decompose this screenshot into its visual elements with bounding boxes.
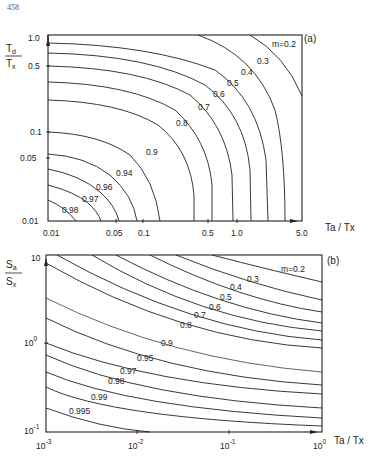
contour-label: 0.995	[69, 406, 91, 416]
contour-label: 0.5	[220, 292, 232, 302]
x-axis-arrow-icon	[290, 219, 298, 223]
contour-label: 0.8	[176, 118, 188, 128]
x-tick-0.1: 0.1	[138, 228, 150, 238]
x-tick-0.01: 0.01	[43, 228, 60, 238]
panel-a-tag: (a)	[304, 33, 316, 44]
contour-label: 0.95	[137, 353, 154, 363]
contour-lowest	[46, 408, 150, 432]
panel-a-x-title: Ta / Tx	[325, 222, 355, 233]
contour-m0.2	[212, 255, 322, 282]
figure: Td Tx 1.0 0.5 0.1 0.05 0.01 0.01 0.05 0.…	[0, 0, 375, 465]
contour-label: 0.3	[257, 56, 269, 66]
y-tick-0.05: 0.05	[20, 153, 37, 163]
x-tick-5.0: 5.0	[296, 228, 308, 238]
y-tick-0.1: 0.1	[30, 127, 42, 137]
contour-label: 0.97	[120, 366, 137, 376]
y-tick-1.0: 1.0	[28, 33, 40, 43]
y-axis-arrow-icon	[46, 38, 50, 46]
contour-label: 0.6	[213, 89, 225, 99]
panel-b-x-title: Ta / Tx	[334, 435, 364, 446]
x-tick-0.05: 0.05	[106, 228, 123, 238]
contour-label: 0.7	[194, 310, 206, 320]
contour-label: 0.4	[241, 67, 253, 77]
y-axis-arrow-icon	[44, 258, 48, 266]
panel-b-y-label: Sa Sx	[5, 259, 22, 288]
contour-label: 0.4	[230, 282, 242, 292]
contour-label: 0.6	[209, 302, 221, 312]
x-tick-10e-2: 10-2	[128, 438, 144, 451]
svg-text:Tx: Tx	[6, 58, 16, 70]
x-axis-arrow-icon	[310, 430, 318, 434]
panel-a-ticks	[46, 66, 237, 223]
contour-0.3	[198, 35, 285, 221]
contour-0.4	[48, 43, 268, 221]
contour-label: 0.9	[146, 147, 158, 157]
x-tick-10e-1: 10-1	[220, 438, 236, 451]
contour-label: 0.7	[198, 102, 210, 112]
svg-text:Td: Td	[6, 43, 16, 55]
contour-label: 0.9	[161, 338, 173, 348]
x-tick-10e-3: 10-3	[36, 438, 52, 451]
panel-b-tag: (b)	[327, 255, 339, 266]
svg-text:Sa: Sa	[6, 259, 17, 271]
y-tick-0.01: 0.01	[22, 216, 39, 226]
contour-label: 0.3	[247, 274, 259, 284]
contour-label: 0.94	[116, 168, 133, 178]
x-tick-10e0: 100	[313, 438, 326, 451]
panel-a-y-label: Td Tx	[5, 43, 22, 70]
y-tick-0.5: 0.5	[28, 61, 40, 71]
x-tick-1.0: 1.0	[231, 228, 243, 238]
contour-label: 0.96	[96, 182, 113, 192]
contour-label: m=0.2	[272, 39, 296, 49]
contour-0.8	[48, 100, 194, 221]
contour-label: m=0.2	[281, 264, 305, 274]
y-tick-10e0: 100	[24, 335, 37, 348]
contour-label: 0.8	[180, 320, 192, 330]
contour-label: 0.99	[91, 392, 108, 402]
y-tick-10: 10	[31, 253, 41, 263]
contour-label: 0.98	[62, 205, 79, 215]
x-tick-0.5: 0.5	[202, 228, 214, 238]
contour-label: 0.98	[108, 376, 125, 386]
contour-label: 0.5	[227, 78, 239, 88]
svg-text:Sx: Sx	[6, 276, 17, 288]
contour-0.6	[48, 66, 233, 221]
contour-label: 0.97	[82, 194, 99, 204]
contour-0.5	[48, 53, 251, 221]
y-tick-10e-1: 10-1	[24, 423, 40, 436]
